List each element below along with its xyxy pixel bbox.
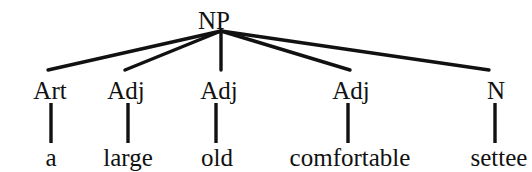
pos-node-art-0: Art: [33, 78, 66, 103]
terminal-word-large: large: [103, 145, 153, 170]
pos-node-adj-1: Adj: [107, 78, 145, 103]
syntax-tree-figure: NP ArtAdjAdjAdjN alargeoldcomfortableset…: [0, 0, 532, 172]
branch-group: [48, 31, 489, 70]
terminal-word-settee: settee: [471, 145, 528, 170]
stem-group: [51, 103, 495, 143]
root-node-np: NP: [198, 8, 230, 33]
terminal-word-comfortable: comfortable: [290, 145, 411, 170]
tree-edges-svg: [0, 0, 532, 172]
terminal-word-a: a: [45, 145, 56, 170]
terminal-word-old: old: [201, 145, 233, 170]
branch-edge-art-0: [48, 31, 221, 70]
pos-node-adj-2: Adj: [200, 78, 238, 103]
branch-edge-n-4: [221, 31, 489, 70]
pos-node-n-4: N: [487, 78, 505, 103]
branch-edge-adj-3: [221, 31, 350, 70]
pos-node-adj-3: Adj: [332, 78, 370, 103]
